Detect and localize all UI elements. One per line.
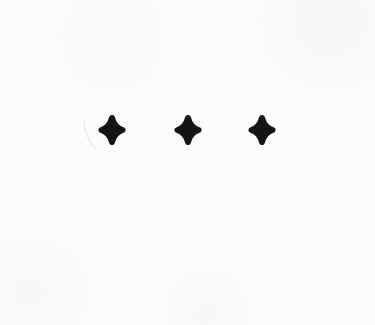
four-pointed-star-icon [178, 118, 199, 142]
four-pointed-star-icon [252, 118, 273, 142]
star-row-graphic [0, 0, 375, 325]
four-pointed-star-icon [102, 118, 123, 142]
scan-artifact-line [84, 122, 96, 149]
scanned-page [0, 0, 375, 325]
